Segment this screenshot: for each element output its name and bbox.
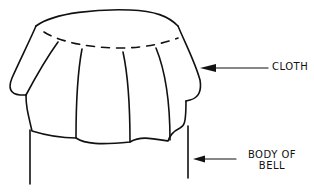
- cloth-fold-1: [26, 42, 58, 95]
- cloth-label: CLOTH: [272, 61, 308, 72]
- body-arrowhead-icon: [193, 156, 205, 163]
- cloth-fold-2: [76, 49, 82, 138]
- cloth-fold-3: [123, 52, 130, 142]
- cloth-fold-4: [156, 48, 170, 140]
- cloth-top-outline: [36, 10, 178, 26]
- body-label-line-1: BODY OF: [236, 149, 308, 160]
- cloth-right-side: [178, 26, 201, 101]
- cloth-arrowhead-icon: [200, 64, 216, 72]
- cloth-bottom-hem: [26, 95, 186, 144]
- body-of-bell-label: BODY OF BELL: [236, 149, 308, 171]
- cloth-dashed-rim: [44, 32, 178, 48]
- body-label-line-2: BELL: [236, 160, 308, 171]
